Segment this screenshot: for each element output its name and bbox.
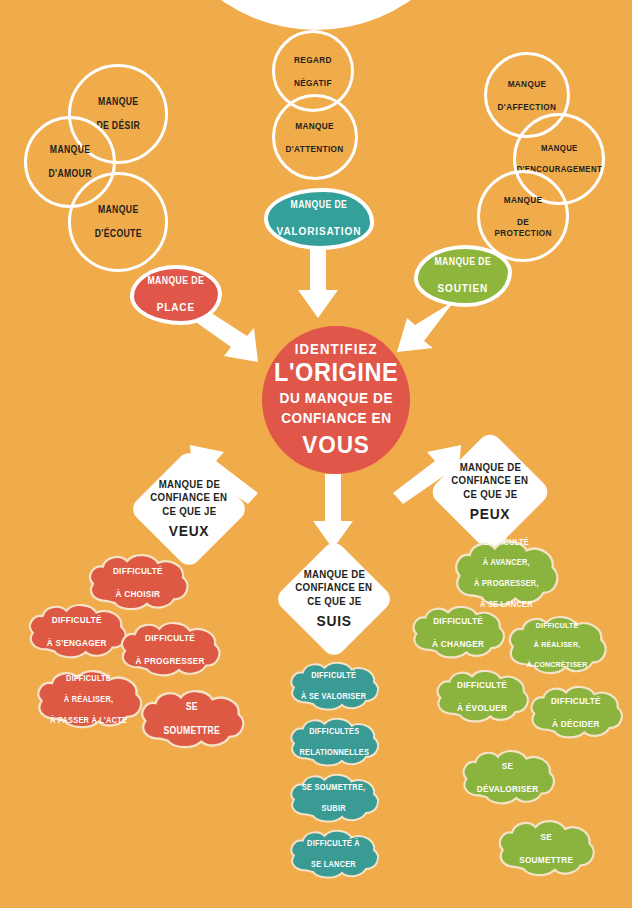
diamond-line-3: CE QUE JE	[463, 488, 517, 502]
cloud-difficultes-relationnelles: DIFFICULTÉSRELATIONNELLES	[286, 716, 382, 768]
diamond-line-3: CE QUE JE	[307, 595, 361, 609]
blob-manque-de-place: MANQUE DEPLACE	[130, 265, 222, 325]
cloud-difficulte-a-realiser-concretiser: DIFFICULTÉÀ RÉALISER,À CONCRÉTISER	[504, 614, 610, 676]
diamond-line-1: MANQUE DE	[303, 568, 365, 582]
diamond-confiance-peux: MANQUE DE CONFIANCE EN CE QUE JE PEUX	[446, 448, 534, 536]
cloud-se-soumettre-rouge: SESOUMETTRE	[136, 688, 248, 750]
circle-manque-dattention: MANQUED'ATTENTION	[272, 94, 358, 180]
diamond-keyword: SUIS	[316, 611, 351, 631]
cloud-difficulte-a-changer: DIFFICULTÉÀ CHANGER	[408, 604, 508, 660]
cloud-difficulte-a-avancer: DIFFICULTÉÀ AVANCER,À PROGRESSER,À SE LA…	[450, 538, 562, 608]
diamond-line-2: CONFIANCE EN	[296, 581, 373, 595]
cloud-difficulte-a-se-valoriser: DIFFICULTÉÀ SE VALORISER	[286, 660, 382, 712]
diamond-line-1: MANQUE DE	[459, 461, 521, 475]
cloud-difficulte-a-se-lancer: DIFFICULTÉ ÀSE LANCER	[286, 828, 382, 880]
diamond-line-2: CONFIANCE EN	[151, 491, 228, 505]
center-line-2: L'ORIGINE	[274, 358, 398, 387]
cloud-se-soumettre-subir: SE SOUMETTRE,SUBIR	[286, 772, 382, 824]
center-line-4: VOUS	[302, 431, 370, 459]
cloud-difficulte-a-sengager: DIFFICULTÉÀ S'ENGAGER	[24, 602, 130, 660]
center-line-3: DU MANQUE DECONFIANCE EN	[279, 389, 393, 428]
diamond-confiance-veux: MANQUE DE CONFIANCE EN CE QUE JE VEUX	[146, 466, 232, 552]
diamond-line-1: MANQUE DE	[158, 478, 220, 492]
blob-manque-de-valorisation: MANQUE DEVALORISATION	[264, 188, 374, 250]
circle-manque-de-protection: MANQUEDE PROTECTION	[477, 170, 569, 262]
cloud-difficulte-a-realiser: DIFFICULTÉÀ RÉALISER,À PASSER À L'ACTE	[32, 668, 146, 730]
diamond-line-2: CONFIANCE EN	[452, 474, 529, 488]
infographic-canvas: MANQUEDE DÉSIR MANQUED'AMOUR MANQUED'ÉCO…	[0, 0, 632, 908]
cloud-difficulte-a-evoluer: DIFFICULTÉÀ ÉVOLUER	[432, 668, 532, 724]
diamond-keyword: VEUX	[169, 521, 210, 541]
blob-manque-de-soutien: MANQUE DESOUTIEN	[414, 245, 512, 307]
circle-manque-decoute: MANQUED'ÉCOUTE	[68, 172, 168, 272]
cloud-se-devaloriser: SEDÉVALORISER	[458, 748, 558, 806]
center-line-1: IDENTIFIEZ	[295, 341, 378, 357]
cloud-difficulte-a-decider: DIFFICULTÉÀ DÉCIDER	[526, 684, 626, 740]
diamond-keyword: PEUX	[470, 504, 511, 524]
center-circle-origine: IDENTIFIEZ L'ORIGINE DU MANQUE DECONFIAN…	[262, 326, 410, 474]
cloud-se-soumettre-vert: SESOUMETTRE	[494, 818, 598, 878]
diamond-line-3: CE QUE JE	[162, 505, 216, 519]
diamond-confiance-suis: MANQUE DE CONFIANCE EN CE QUE JE SUIS	[291, 556, 377, 642]
